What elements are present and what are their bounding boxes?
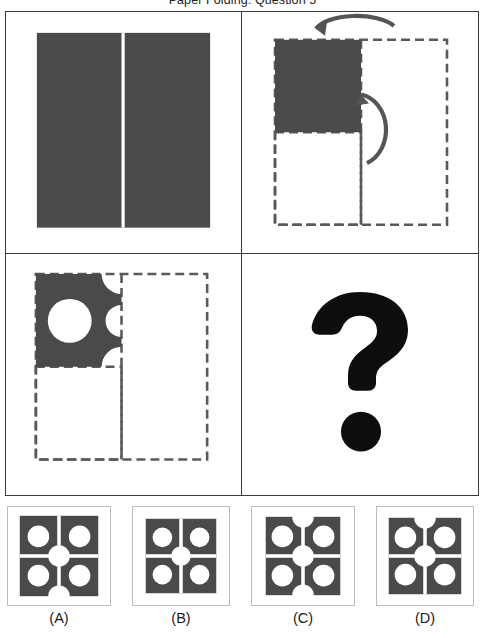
question-mark-icon [312,291,408,451]
panel-2-figure [242,12,478,253]
answer-option-b[interactable]: (B) [127,506,235,634]
answer-option-a-label: (A) [49,610,68,626]
punched-dark-quadrant [6,254,241,496]
answer-option-b-label: (B) [171,610,190,626]
panel-question-mark [242,254,478,496]
fold-line-vertical [122,33,125,228]
panel-folding-step [242,12,478,254]
answer-option-a-figure[interactable] [7,506,111,606]
answer-option-b-figure[interactable] [132,506,230,606]
paper-folding-sequence-grid [5,11,479,496]
answer-options-row: (A) [5,506,479,634]
panel-1-figure [6,12,241,253]
panel-punched-sheet [6,254,242,496]
page-title: Paper Folding: Question 5 [0,0,485,7]
folded-dark-quadrant [275,40,361,132]
fold-arrow-vertical [361,94,386,163]
answer-option-c[interactable]: (C) [249,506,357,634]
answer-option-d-figure[interactable] [376,506,474,606]
panel-4-figure [242,254,478,496]
answer-option-c-figure[interactable] [251,506,355,606]
panel-3-figure [6,254,241,496]
answer-option-d[interactable]: (D) [371,506,479,634]
answer-option-c-label: (C) [293,610,313,626]
dashed-outline-bottom-left [275,132,361,224]
fold-arrow-horizontal [316,16,394,29]
answer-option-a[interactable]: (A) [5,506,113,634]
panel-unfolded-sheet [6,12,242,254]
answer-option-d-label: (D) [415,610,435,626]
